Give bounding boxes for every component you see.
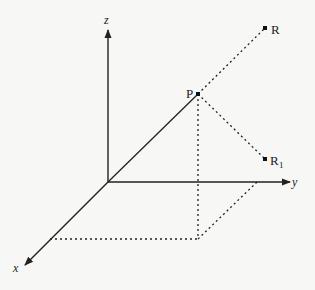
y-projection-dotted xyxy=(198,182,257,239)
point-p-label: P xyxy=(186,86,193,101)
point-r1 xyxy=(263,157,267,161)
point-r-label: R xyxy=(271,22,280,37)
p-to-r1-dotted xyxy=(198,94,265,159)
p-to-r-dotted xyxy=(198,28,265,94)
x-axis-label: x xyxy=(12,261,19,275)
point-r1-label: R xyxy=(270,153,279,168)
point-r xyxy=(263,26,267,30)
y-axis-label: y xyxy=(291,175,298,189)
point-r1-subscript: 1 xyxy=(279,160,284,170)
point-p xyxy=(196,92,200,96)
coordinate-diagram: z y x P R R 1 xyxy=(0,0,315,290)
x-axis xyxy=(25,182,108,265)
origin-to-p-line xyxy=(108,94,198,182)
z-axis-label: z xyxy=(103,13,109,27)
